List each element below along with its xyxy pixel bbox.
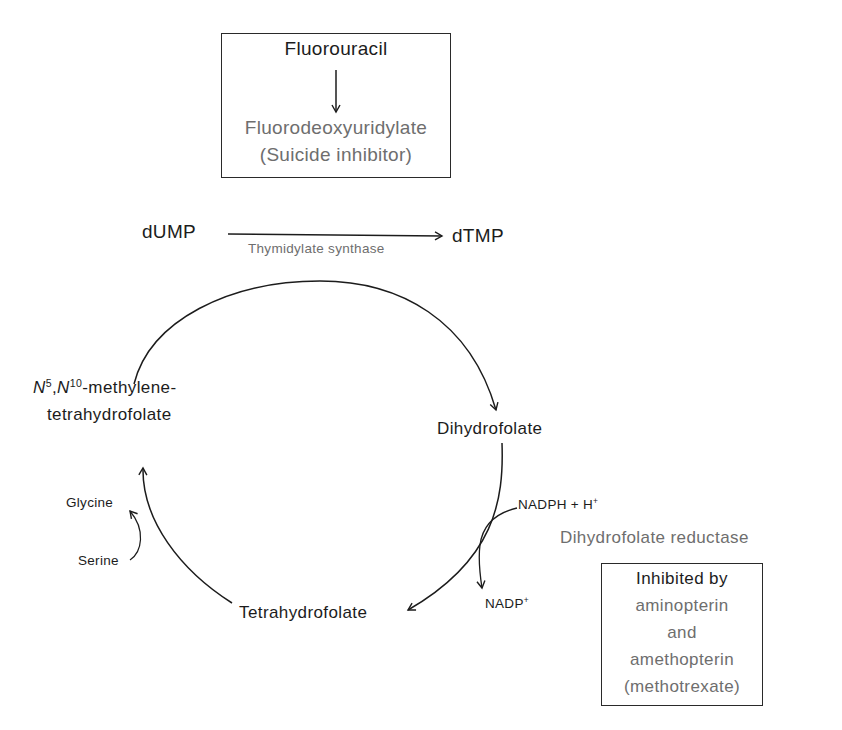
dihydrofolate-reductase-label: Dihydrofolate reductase	[560, 528, 749, 548]
nadph-label: NADPH + H+	[518, 497, 598, 512]
nadp-text: NADP	[485, 596, 524, 611]
n5-atom: N	[33, 378, 46, 397]
nadp-superscript: +	[524, 595, 529, 605]
and-label: and	[601, 623, 763, 643]
nadp-label: NADP+	[485, 596, 529, 611]
amethopterin-label: amethopterin	[601, 650, 763, 670]
glycine-label: Glycine	[66, 495, 113, 510]
methylene-thf-line2: tetrahydrofolate	[47, 405, 172, 425]
fluorodeoxyuridylate-label: Fluorodeoxyuridylate	[221, 117, 451, 139]
serine-label: Serine	[78, 553, 119, 568]
dihydrofolate-label: Dihydrofolate	[437, 419, 542, 439]
methylene-suffix: -methylene-	[82, 378, 176, 397]
thymidylate-synthase-arrow	[228, 234, 442, 236]
dump-label: dUMP	[142, 221, 196, 243]
n10-superscript: 10	[70, 377, 83, 389]
fluorouracil-label: Fluorouracil	[221, 38, 451, 60]
cycle-arc-top	[134, 281, 496, 410]
inhibited-by-title: Inhibited by	[601, 569, 763, 589]
methotrexate-label: (methotrexate)	[601, 677, 763, 697]
suicide-inhibitor-note: (Suicide inhibitor)	[221, 144, 451, 166]
tetrahydrofolate-label: Tetrahydrofolate	[239, 603, 367, 623]
nadph-text: NADPH + H	[518, 497, 593, 512]
serine-glycine-arrow	[130, 511, 141, 560]
aminopterin-label: aminopterin	[601, 596, 763, 616]
methylene-thf-label: N5,N10-methylene-	[33, 378, 176, 398]
nadph-arrow	[479, 508, 517, 588]
n10-atom: N	[57, 378, 70, 397]
dtmp-label: dTMP	[452, 225, 504, 247]
nadph-superscript: +	[593, 496, 598, 506]
cycle-arc-right	[408, 443, 502, 610]
cycle-arc-left	[143, 468, 232, 603]
thymidylate-synthase-label: Thymidylate synthase	[248, 241, 385, 256]
